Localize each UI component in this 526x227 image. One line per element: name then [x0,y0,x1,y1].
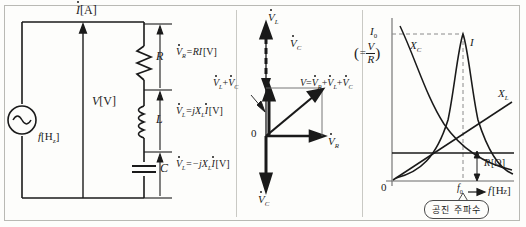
series-i-label: I [470,37,474,48]
equation-vc: VL=−jXLI [V] [176,159,229,171]
phasor-resultant [266,89,323,136]
graph-r-measure-arrow [474,151,480,181]
phasor-vr [266,131,324,141]
ac-source-icon [8,106,36,134]
inductor-icon [139,106,145,138]
phasor-vl-label: VL [268,12,279,26]
phasor-origin-label: 0 [251,128,257,139]
capacitor-icon [132,166,156,172]
phasor-svg [238,0,360,227]
resistor-icon [137,46,151,80]
graph-origin-label: 0 [381,182,387,193]
phasor-vc-top-label: VC [290,38,301,52]
inductor-label: L [156,113,163,125]
resonance-panel: I0 (=VR) XC I XL R [Ω] 0 f0 f [Hz] 공진 주파… [364,0,520,227]
phasor-vc [261,136,271,190]
current-arrow [80,24,87,198]
current-label: I[A] [76,4,97,16]
series-xc-label: XC [410,40,421,54]
equation-vr: VR=RI [V] [176,47,217,59]
source-frequency-label: f[Hz] [38,131,59,145]
series-xl-label: XL [498,88,509,102]
phasor-vc-bottom-label: VC [258,194,269,208]
y-axis-peak-label: I0 [370,26,377,40]
capacitor-label: C [160,162,168,174]
series-xl [393,102,512,180]
phasor-resultant-label: V=VR+VL+VC [300,78,353,90]
phasor-sum-label: VL+VC [213,78,238,90]
resistor-label: R [156,50,163,62]
phasor-sum-pointer [251,95,265,112]
equation-vl: VL=jXLI [V] [176,106,223,118]
resonance-callout: 공진 주파수 [424,200,489,219]
panel-divider-1 [236,10,237,217]
figure-root: I[A] V[V] f[Hz] R L C VR=RI [V] VL=jXLI … [0,0,526,227]
graph-f-axis-arrow [468,189,485,196]
circuit-panel: I[A] V[V] f[Hz] R L C VR=RI [V] VL=jXLI … [4,0,234,227]
phasor-panel: VL VC VL+VC V=VR+VL+VC VR VC 0 [238,0,360,227]
phasor-vr-label: VR [328,136,339,150]
voltage-label: V[V] [92,95,116,107]
graph-r-label: R [Ω] [484,158,505,168]
resonance-tick-label: f0 [457,183,463,195]
y-axis-expression: (=VR) [354,41,380,65]
x-axis-label: f [Hz] [488,185,511,196]
